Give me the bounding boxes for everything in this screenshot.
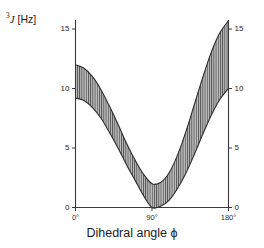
y-tick-label-right: 10 (235, 84, 255, 93)
x-tick-label: 180° (220, 213, 238, 222)
y-tick-label-right: 0 (235, 203, 255, 212)
chart-canvas (0, 0, 264, 248)
band-region (76, 21, 229, 209)
x-tick-label: 90° (143, 213, 161, 222)
x-tick-label: 0° (67, 213, 85, 222)
y-tick-label-right: 5 (235, 143, 255, 152)
y-tick-label-left: 10 (52, 84, 70, 93)
x-axis-title-symbol: ϕ (171, 226, 178, 240)
x-axis-title: Dihedral angle ϕ (0, 226, 264, 240)
karplus-curve-figure: 3J [Hz] Dihedral angle ϕ 0055101015150°9… (0, 0, 264, 248)
x-axis-title-text: Dihedral angle (86, 226, 167, 240)
y-axis-title: 3J [Hz] (6, 12, 36, 25)
y-tick-label-left: 0 (52, 203, 70, 212)
y-axis-title-unit: [Hz] (18, 13, 37, 25)
y-tick-label-left: 15 (52, 24, 70, 33)
y-tick-label-right: 15 (235, 24, 255, 33)
y-tick-label-left: 5 (52, 143, 70, 152)
